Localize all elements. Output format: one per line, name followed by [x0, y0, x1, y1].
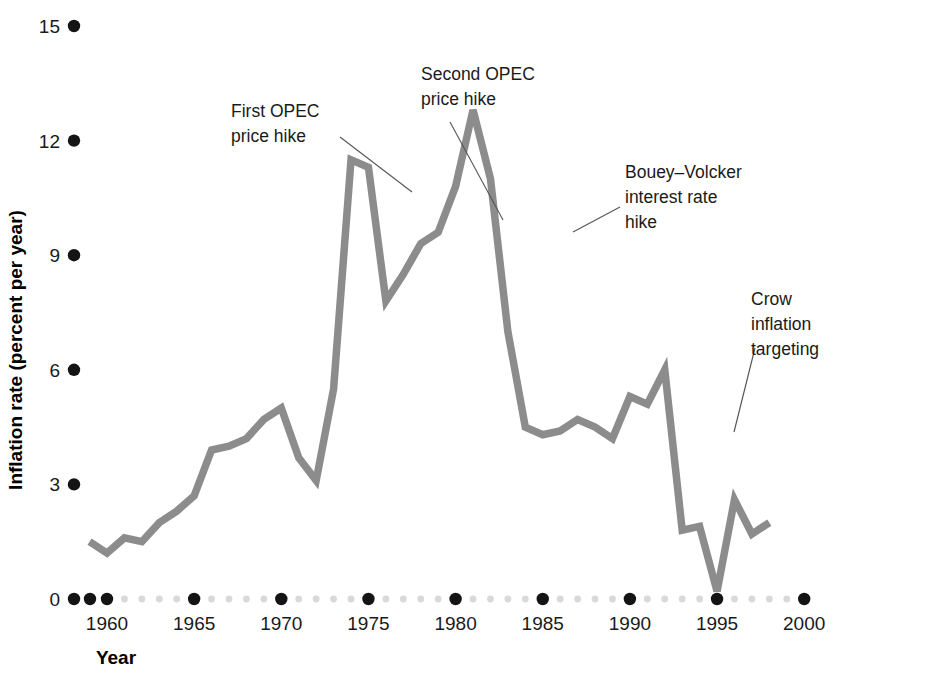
x-major-dot-1995: [711, 593, 723, 605]
annotation-line: Bouey–Volcker: [625, 162, 742, 182]
x-minor-dot: [731, 596, 738, 603]
y-tick-dot-12: [68, 134, 80, 146]
x-minor-dot: [592, 596, 599, 603]
x-tick-label-1990: 1990: [609, 613, 651, 634]
x-minor-dot: [574, 596, 581, 603]
y-tick-dot-6: [68, 364, 80, 376]
x-tick-label-1975: 1975: [347, 613, 389, 634]
x-major-dot-1975: [362, 593, 374, 605]
y-tick-dot-0: [68, 593, 80, 605]
x-minor-dot: [522, 596, 529, 603]
x-tick-label-1965: 1965: [173, 613, 215, 634]
x-minor-dot: [226, 596, 233, 603]
x-minor-dot: [138, 596, 145, 603]
annotation-line: inflation: [751, 314, 811, 334]
x-minor-dot: [679, 596, 686, 603]
x-minor-dot: [330, 596, 337, 603]
y-tick-label-6: 6: [49, 360, 60, 381]
x-minor-dot: [313, 596, 320, 603]
x-major-dot-1960: [101, 593, 113, 605]
x-minor-dot: [487, 596, 494, 603]
x-minor-dot: [504, 596, 511, 603]
x-minor-dot: [644, 596, 651, 603]
x-major-dot-1965: [188, 593, 200, 605]
x-tick-label-1970: 1970: [260, 613, 302, 634]
x-minor-dot: [766, 596, 773, 603]
annotation-line: Crow: [751, 289, 792, 309]
annotation-line: price hike: [421, 89, 496, 109]
y-axis-title: Inflation rate (percent per year): [5, 210, 26, 490]
x-minor-dot: [557, 596, 564, 603]
x-axis-title: Year: [96, 647, 137, 668]
x-minor-dot: [661, 596, 668, 603]
x-minor-dot: [749, 596, 756, 603]
annotation-line: Second OPEC: [421, 64, 535, 84]
x-minor-dot: [382, 596, 389, 603]
x-minor-dot: [470, 596, 477, 603]
y-tick-label-9: 9: [49, 245, 60, 266]
x-minor-dot: [295, 596, 302, 603]
x-minor-dot: [609, 596, 616, 603]
x-axis-origin-dot: [84, 593, 96, 605]
y-tick-label-3: 3: [49, 474, 60, 495]
annotation-line: interest rate: [625, 187, 717, 207]
y-tick-dot-3: [68, 478, 80, 490]
chart-canvas: 03691215 1960196519701975198019851990199…: [0, 0, 937, 674]
x-major-dot-1985: [537, 593, 549, 605]
x-tick-label-1995: 1995: [696, 613, 738, 634]
annotation-line: hike: [625, 212, 657, 232]
y-tick-dot-9: [68, 249, 80, 261]
x-tick-label-1960: 1960: [86, 613, 128, 634]
x-minor-dot: [121, 596, 128, 603]
x-minor-dot: [156, 596, 163, 603]
inflation-rate-chart: 03691215 1960196519701975198019851990199…: [0, 0, 937, 674]
x-minor-dot: [260, 596, 267, 603]
x-minor-dot: [783, 596, 790, 603]
annotation-line: First OPEC: [231, 101, 319, 121]
y-tick-label-15: 15: [39, 16, 60, 37]
x-minor-dot: [400, 596, 407, 603]
x-major-dot-1970: [275, 593, 287, 605]
annotation-line: targeting: [751, 339, 819, 359]
x-tick-label-1980: 1980: [434, 613, 476, 634]
x-major-dot-1980: [449, 593, 461, 605]
y-tick-label-12: 12: [39, 131, 60, 152]
x-minor-dot: [243, 596, 250, 603]
x-tick-label-1985: 1985: [522, 613, 564, 634]
x-minor-dot: [208, 596, 215, 603]
x-minor-dot: [348, 596, 355, 603]
x-minor-dot: [417, 596, 424, 603]
x-tick-label-2000: 2000: [783, 613, 825, 634]
annotation-line: price hike: [231, 126, 306, 146]
y-tick-label-0: 0: [49, 589, 60, 610]
x-major-dot-2000: [798, 593, 810, 605]
x-major-dot-1990: [624, 593, 636, 605]
x-minor-dot: [435, 596, 442, 603]
x-minor-dot: [696, 596, 703, 603]
x-axis-tick-labels: 196019651970197519801985199019952000: [86, 613, 825, 634]
x-minor-dot: [173, 596, 180, 603]
y-tick-dot-15: [68, 20, 80, 32]
